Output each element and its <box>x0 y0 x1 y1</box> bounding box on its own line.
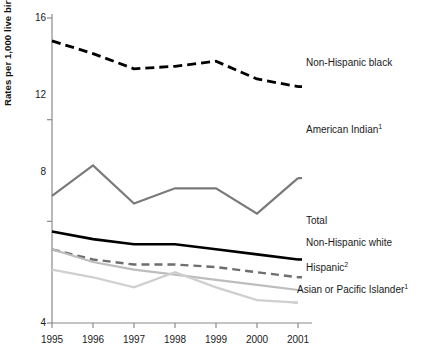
footnote-marker: 1 <box>404 283 408 290</box>
series-label-text: Hispanic <box>306 262 344 273</box>
series-label-american-indian: American Indian1 <box>306 124 382 135</box>
series-label-text: Non-Hispanic white <box>306 237 392 248</box>
series-label-text: Asian or Pacific Islander <box>297 284 404 295</box>
series-label-text: Total <box>306 215 327 226</box>
series-label-total: Total <box>306 215 327 226</box>
footnote-marker: 1 <box>378 123 382 130</box>
series-label-non-hispanic-black: Non-Hispanic black <box>306 57 392 68</box>
series-line-american-indian <box>52 165 298 213</box>
series-label-text: Non-Hispanic black <box>306 57 392 68</box>
series-line-non-hispanic-black <box>52 41 298 87</box>
series-line-total <box>52 232 298 260</box>
mortality-rate-line-chart: Rates per 1,000 live births 16 12 8 4 19… <box>0 0 427 359</box>
footnote-marker: 2 <box>344 261 348 268</box>
plot-area <box>0 0 427 359</box>
series-label-non-hispanic-white: Non-Hispanic white <box>306 237 392 248</box>
series-label-text: American Indian <box>306 124 378 135</box>
series-label-hispanic: Hispanic2 <box>306 262 348 273</box>
series-group <box>52 41 302 303</box>
series-label-asian-pacific-islander: Asian or Pacific Islander1 <box>297 284 408 295</box>
